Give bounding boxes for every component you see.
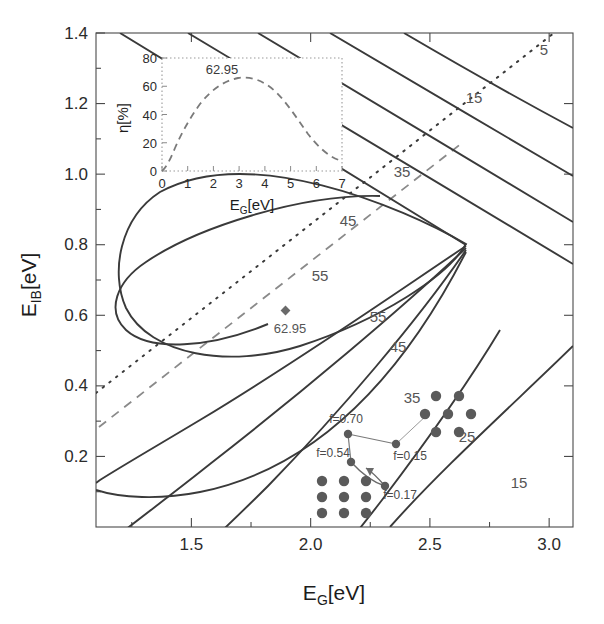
contour-label: 35 <box>404 389 421 406</box>
material-point-label: f=0.54 <box>316 446 350 460</box>
x-axis-title-base: E <box>303 581 317 604</box>
x-axis-title-sub: G <box>317 592 328 608</box>
svg-text:η[%]: η[%] <box>114 103 131 133</box>
contour-label: 45 <box>340 212 357 229</box>
inset-y-tick-label: 80 <box>143 51 157 66</box>
y-tick-label: 1.4 <box>64 24 88 43</box>
contour-label: 55 <box>312 267 329 284</box>
inset-y-tick-label: 0 <box>150 164 157 179</box>
y-axis-title-base: E <box>17 303 40 317</box>
svg-text:EG[eV]: EG[eV] <box>303 581 365 608</box>
x-axis-title-unit: [eV] <box>328 581 365 604</box>
contour-label: 15 <box>466 89 483 106</box>
contour-label: 45 <box>390 338 407 355</box>
figure-container: 1.5 2.0 2.5 3.0 0.2 0.4 0.6 0.8 1.0 1.2 … <box>0 0 604 624</box>
svg-text:EIB[eV]: EIB[eV] <box>17 253 44 318</box>
y-tick-label: 0.8 <box>64 235 88 254</box>
inset-x-tick-label: 6 <box>313 176 320 191</box>
inset-x-tick-label: 3 <box>235 176 242 191</box>
optimum-marker-label: 62.95 <box>274 321 307 336</box>
y-tick-label: 0.4 <box>64 376 88 395</box>
inset-x-tick-label: 2 <box>210 176 217 191</box>
inset-x-tick-label: 1 <box>184 176 191 191</box>
y-tick-label: 1.2 <box>64 94 88 113</box>
y-tick-label: 0.2 <box>64 447 88 466</box>
inset-x-title-unit: [eV] <box>248 196 275 213</box>
inset-y-axis-title: η[%] <box>114 103 131 133</box>
contour-label: 15 <box>511 474 528 491</box>
inset-x-tick-label: 0 <box>158 176 165 191</box>
contour-label: 35 <box>394 163 411 180</box>
inset-frame <box>162 58 342 171</box>
material-point-label: f=0.17 <box>383 488 417 502</box>
contour-label: 55 <box>370 308 387 325</box>
y-tick-label: 1.0 <box>64 165 88 184</box>
inset-y-tick-label: 20 <box>143 136 157 151</box>
x-tick-label: 2.5 <box>418 535 442 554</box>
x-tick-label: 2.0 <box>299 535 323 554</box>
y-axis-title-unit: [eV] <box>17 253 40 290</box>
x-tick-label: 1.5 <box>180 535 204 554</box>
inset-y-tick-label: 60 <box>143 79 157 94</box>
inset-x-title-base: E <box>230 196 240 213</box>
inset-x-tick-label: 4 <box>261 176 268 191</box>
square-lattice-cluster <box>317 476 371 518</box>
material-data-point <box>344 430 352 438</box>
material-point-label: f=0.70 <box>329 412 363 426</box>
contour-plot-svg: 1.5 2.0 2.5 3.0 0.2 0.4 0.6 0.8 1.0 1.2 … <box>0 0 604 624</box>
contour-label: 5 <box>540 41 548 58</box>
y-tick-label: 0.6 <box>64 306 88 325</box>
x-tick-label: 3.0 <box>537 535 561 554</box>
material-point-label: f=0.15 <box>393 449 427 463</box>
y-axis-title: EIB[eV] <box>17 253 44 318</box>
inset-y-tick-label: 40 <box>143 108 157 123</box>
inset-x-tick-label: 7 <box>338 176 345 191</box>
y-axis-title-sub: IB <box>28 290 44 303</box>
material-data-point <box>392 440 400 448</box>
inset-x-tick-label: 5 <box>287 176 294 191</box>
inset-peak-label: 62.95 <box>206 62 239 77</box>
x-axis-title: EG[eV] <box>303 581 365 608</box>
